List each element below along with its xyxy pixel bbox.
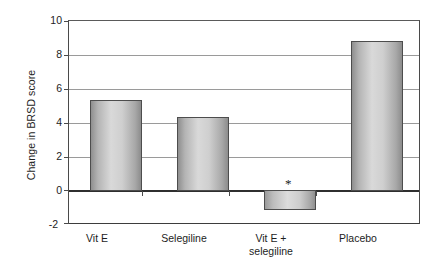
- x-tick-mark-1: [142, 191, 143, 196]
- bar-selegiline: [177, 117, 229, 191]
- y-tick-label-0: 0: [36, 184, 62, 196]
- plot-area: *: [68, 20, 420, 224]
- x-tick-mark-2: [229, 191, 230, 196]
- y-tick-label-4: 4: [36, 116, 62, 128]
- y-tick-mark-0: [64, 190, 69, 191]
- significance-asterisk: *: [285, 179, 292, 189]
- x-tick-mark-3: [316, 191, 317, 196]
- y-tick-label-10: 10: [36, 14, 62, 26]
- x-category-label-vit-e-plus-selegiline: Vit E + selegiline: [228, 232, 314, 257]
- y-tick-mark-6: [64, 89, 69, 90]
- y-tick-mark-4: [64, 123, 69, 124]
- y-tick-mark-minus-2: [64, 223, 69, 224]
- y-tick-label-8: 8: [36, 48, 62, 60]
- y-tick-mark-10: [64, 21, 69, 22]
- y-tick-label-minus-2: -2: [32, 218, 58, 230]
- y-tick-label-6: 6: [36, 82, 62, 94]
- bar-chart-figure: Change in BRSD score 10 8 6 4 2 0 -2: [0, 0, 434, 265]
- x-category-label-placebo: Placebo: [315, 232, 401, 245]
- bar-vit-e: [90, 100, 142, 191]
- bar-vit-e-plus-selegiline: [264, 190, 316, 210]
- bar-placebo: [351, 41, 403, 191]
- x-category-label-vit-e: Vit E: [54, 232, 140, 245]
- y-tick-mark-2: [64, 157, 69, 158]
- y-tick-label-2: 2: [36, 150, 62, 162]
- y-tick-mark-8: [64, 55, 69, 56]
- x-category-label-selegiline: Selegiline: [141, 232, 227, 245]
